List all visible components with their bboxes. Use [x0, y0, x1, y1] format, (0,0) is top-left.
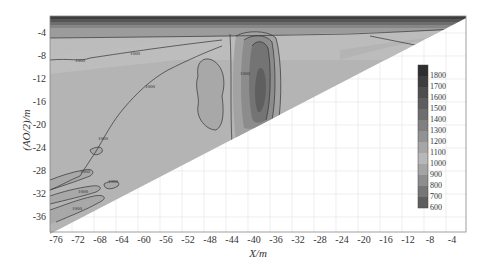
svg-text:-4: -4	[38, 27, 46, 38]
contour-label: 1000	[145, 84, 156, 89]
svg-text:-32: -32	[291, 234, 304, 245]
svg-text:-16: -16	[379, 234, 392, 245]
contour-label: 1000	[80, 169, 91, 174]
svg-text:-44: -44	[225, 234, 238, 245]
svg-text:1000: 1000	[430, 159, 446, 168]
svg-text:-4: -4	[448, 234, 456, 245]
svg-text:-32: -32	[33, 188, 46, 199]
svg-text:1400: 1400	[430, 115, 446, 124]
contour-label: 1000	[75, 58, 86, 63]
svg-text:-52: -52	[181, 234, 194, 245]
svg-text:-16: -16	[33, 96, 46, 107]
svg-text:-28: -28	[313, 234, 326, 245]
svg-text:-72: -72	[71, 234, 84, 245]
svg-text:1500: 1500	[430, 104, 446, 113]
svg-text:-68: -68	[93, 234, 106, 245]
contour-chart: 1000 1000 1000 1000 1000 1000 1000 1000 …	[0, 0, 489, 270]
contour-label: 1000	[78, 189, 89, 194]
svg-text:-60: -60	[137, 234, 150, 245]
svg-text:1600: 1600	[430, 93, 446, 102]
svg-text:-24: -24	[335, 234, 348, 245]
svg-text:1800: 1800	[430, 71, 446, 80]
svg-text:-36: -36	[33, 211, 46, 222]
svg-text:-64: -64	[115, 234, 128, 245]
svg-text:-20: -20	[33, 119, 46, 130]
svg-text:-24: -24	[33, 142, 46, 153]
svg-text:-20: -20	[357, 234, 370, 245]
y-axis-ticks: -4 -8 -12 -16 -20 -24 -28 -32 -36	[33, 27, 46, 222]
x-axis-label: X/m	[248, 247, 267, 259]
svg-text:-76: -76	[49, 234, 62, 245]
svg-text:-36: -36	[269, 234, 282, 245]
x-axis-ticks: -76 -72 -68 -64 -60 -56 -52 -48 -44 -40 …	[49, 234, 456, 245]
contour-label: 1000	[72, 206, 83, 211]
svg-text:-28: -28	[33, 165, 46, 176]
svg-text:-56: -56	[159, 234, 172, 245]
colorbar: 1800 1700 1600 1500 1400 1300 1200 1100 …	[418, 65, 446, 212]
svg-text:1700: 1700	[430, 82, 446, 91]
contour-label: 1000	[240, 71, 251, 76]
svg-text:-8: -8	[38, 50, 46, 61]
svg-text:1300: 1300	[430, 126, 446, 135]
svg-text:-8: -8	[426, 234, 434, 245]
contour-label: 1000	[108, 179, 119, 184]
y-axis-label: (AO/2)/m	[20, 109, 33, 151]
svg-text:1200: 1200	[430, 137, 446, 146]
svg-text:-12: -12	[401, 234, 414, 245]
svg-text:-40: -40	[247, 234, 260, 245]
svg-text:900: 900	[430, 170, 442, 179]
svg-text:600: 600	[430, 203, 442, 212]
contour-label: 1000	[98, 136, 109, 141]
svg-text:1100: 1100	[430, 148, 446, 157]
contour-fill	[50, 16, 466, 236]
svg-text:-48: -48	[203, 234, 216, 245]
svg-text:700: 700	[430, 192, 442, 201]
contour-label: 1000	[130, 51, 141, 56]
svg-text:-12: -12	[33, 73, 46, 84]
svg-text:800: 800	[430, 181, 442, 190]
